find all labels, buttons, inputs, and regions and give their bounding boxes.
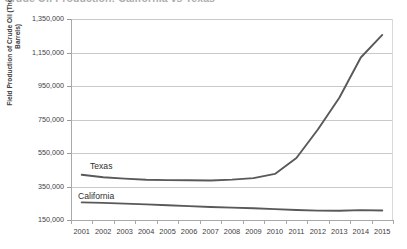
y-tick-label: 950,000 (38, 81, 64, 90)
x-tick-mark (92, 220, 93, 224)
x-tick-mark (307, 220, 308, 224)
x-tick-mark (178, 220, 179, 224)
series-line-texas (82, 35, 383, 181)
x-tick-mark (393, 220, 394, 224)
x-tick-mark (221, 220, 222, 224)
series-label-texas: Texas (88, 161, 114, 171)
chart-title: Crude Oil Production: California vs Texa… (4, 0, 215, 4)
y-axis-title: Field Production of Crude Oil (Thousands… (6, 0, 23, 139)
y-tick-label: 150,000 (38, 215, 64, 224)
y-tick-label: 350,000 (38, 182, 64, 191)
series-label-california: California (76, 191, 116, 201)
x-axis-line (71, 220, 393, 221)
x-tick-mark (286, 220, 287, 224)
x-tick-label: 2015 (369, 227, 395, 236)
x-tick-mark (135, 220, 136, 224)
x-tick-mark (157, 220, 158, 224)
x-tick-mark (243, 220, 244, 224)
x-tick-mark (329, 220, 330, 224)
y-axis-title-line-1: Field Production of Crude Oil (Thousands… (6, 0, 13, 106)
y-tick-label: 550,000 (38, 148, 64, 157)
x-tick-mark (264, 220, 265, 224)
x-tick-mark (350, 220, 351, 224)
y-tick-label: 1,150,000 (32, 48, 64, 57)
x-tick-mark (200, 220, 201, 224)
x-tick-mark (372, 220, 373, 224)
y-tick-label: 1,350,000 (32, 14, 64, 23)
series-line-california (82, 202, 383, 210)
y-axis-title-line-2: Barrels) (15, 24, 22, 49)
x-tick-mark (71, 220, 72, 224)
series-container (71, 19, 393, 220)
y-tick-label: 750,000 (38, 115, 64, 124)
x-tick-mark (114, 220, 115, 224)
